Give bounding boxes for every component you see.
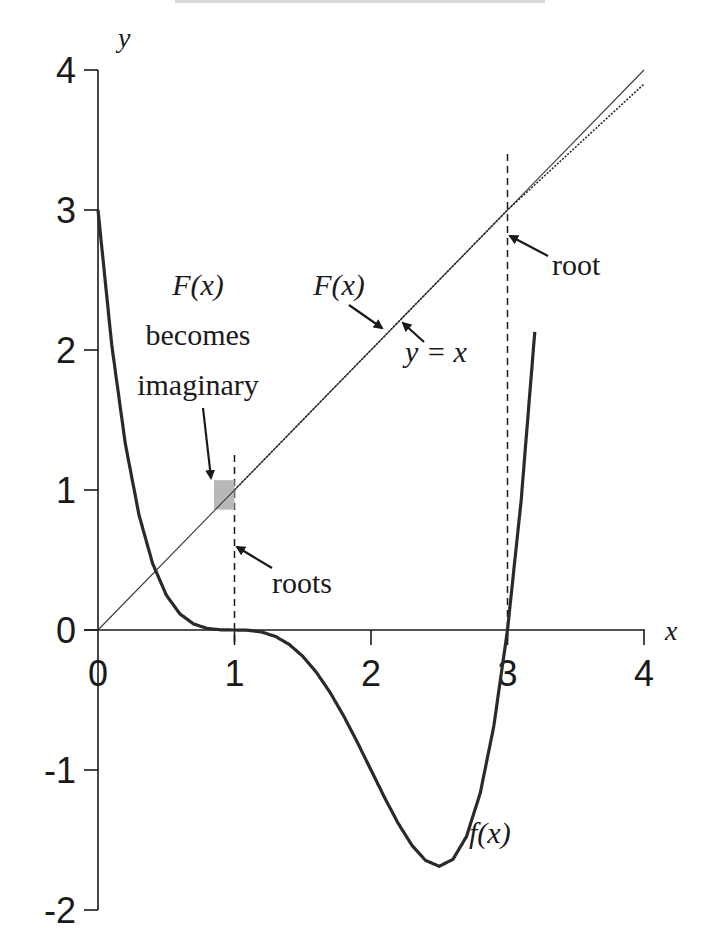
y-tick-label: 3 xyxy=(56,190,76,231)
x-tick-label: 4 xyxy=(634,653,654,694)
label-root: root xyxy=(552,248,601,281)
arrow-root xyxy=(510,236,548,256)
x-tick-labels: 01234 xyxy=(88,653,654,694)
x-axis-name: x xyxy=(664,615,678,646)
y-tick-label: 0 xyxy=(56,610,76,651)
y-tick-label: 2 xyxy=(56,330,76,371)
y-tick-label: 4 xyxy=(56,50,76,91)
x-axis xyxy=(84,630,645,645)
arrow-F-mid xyxy=(349,305,382,328)
y-tick-label: 1 xyxy=(56,470,76,511)
label-imaginary: imaginary xyxy=(137,368,259,401)
y-tick-label: -1 xyxy=(44,750,76,791)
label-F-left: F(x) xyxy=(171,268,224,302)
label-F-mid: F(x) xyxy=(312,268,365,302)
imaginary-region-highlight xyxy=(214,480,234,509)
y-tick-labels: -2-101234 xyxy=(44,50,76,931)
label-roots: roots xyxy=(272,566,332,599)
y-axis-name: y xyxy=(115,22,131,53)
arrow-imaginary xyxy=(203,408,211,478)
line-F-of-x xyxy=(235,84,645,490)
y-axis xyxy=(84,70,98,910)
arrow-roots xyxy=(237,547,272,568)
y-tick-label: -2 xyxy=(44,890,76,931)
annotation-arrows xyxy=(203,236,548,568)
x-tick-label: 0 xyxy=(88,653,108,694)
label-becomes: becomes xyxy=(146,318,251,351)
x-tick-label: 2 xyxy=(361,653,381,694)
x-tick-label: 1 xyxy=(224,653,244,694)
label-y-equals-x: y = x xyxy=(402,335,468,368)
page-edge-bleed xyxy=(175,0,545,3)
label-f-of-x: f(x) xyxy=(469,816,511,850)
curve-f-of-x xyxy=(98,210,535,866)
chart: y x -2-101234 01234 F(x) becomes imagina… xyxy=(0,0,705,949)
